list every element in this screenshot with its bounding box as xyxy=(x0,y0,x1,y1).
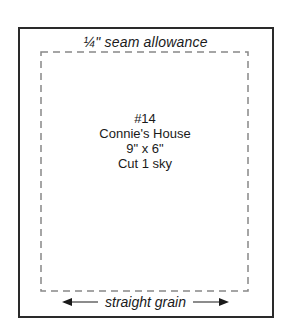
cut-instruction: Cut 1 sky xyxy=(45,156,245,171)
grain-label-container: straight grain xyxy=(0,294,291,310)
piece-size: 9" x 6" xyxy=(45,141,245,156)
piece-info: #14 Connie's House 9" x 6" Cut 1 sky xyxy=(45,111,245,171)
block-name: Connie's House xyxy=(45,126,245,141)
straight-grain-label: straight grain xyxy=(101,294,190,310)
seam-allowance-label: ¼" seam allowance xyxy=(0,34,291,50)
piece-number: #14 xyxy=(45,111,245,126)
